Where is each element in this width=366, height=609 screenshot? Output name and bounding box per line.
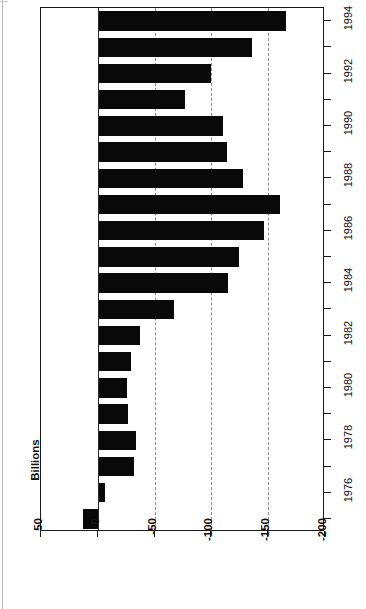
bar [98, 247, 239, 266]
category-tick-label: 1988 [342, 149, 354, 201]
bar-chart-figure: 1976197819801982198419861988199019921994… [0, 0, 366, 609]
zero-reference-line [98, 8, 99, 530]
value-axis-title: Billions [29, 425, 45, 495]
bar [98, 352, 131, 371]
value-tick-label: 0 [89, 518, 101, 572]
bar [98, 195, 280, 214]
bar [98, 431, 137, 450]
bar [98, 378, 128, 397]
value-axis-labels: 500-50-100-150-200 [40, 537, 324, 597]
bar [98, 273, 229, 292]
value-tick-label: -50 [146, 518, 158, 572]
bar [98, 142, 228, 161]
category-axis-labels: 1976197819801982198419861988199019921994 [330, 7, 366, 531]
bar [98, 11, 287, 30]
bar [98, 457, 134, 476]
bar [98, 169, 243, 188]
value-tick-label: 50 [32, 518, 44, 572]
bar [98, 90, 185, 109]
bar [98, 221, 264, 240]
value-tick-label: -200 [316, 518, 328, 572]
category-tick-label: 1982 [342, 307, 354, 359]
value-tick-label: -150 [259, 518, 271, 572]
bar [98, 404, 129, 423]
gridline [155, 8, 156, 530]
bar [98, 300, 174, 319]
category-tick-label: 1984 [342, 254, 354, 306]
bar [98, 116, 223, 135]
category-tick-label: 1990 [342, 97, 354, 149]
bar [98, 326, 140, 345]
bar [98, 38, 252, 57]
gridline [211, 8, 212, 530]
category-tick-label: 1978 [342, 411, 354, 463]
category-tick-label: 1986 [342, 202, 354, 254]
plot-area [40, 7, 324, 531]
category-tick-label: 1994 [342, 0, 354, 44]
category-tick-label: 1980 [342, 359, 354, 411]
bar [98, 483, 105, 502]
gridline [268, 8, 269, 530]
value-tick-label: -100 [202, 518, 214, 572]
bar [98, 64, 212, 83]
category-tick-label: 1992 [342, 45, 354, 97]
category-tick-label: 1976 [342, 464, 354, 516]
